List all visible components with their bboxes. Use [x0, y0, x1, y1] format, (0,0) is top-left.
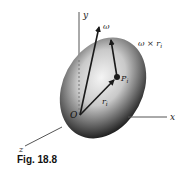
omega-cross-r-label: ω × ri [138, 39, 162, 49]
y-axis-label: y [82, 10, 89, 20]
omega-label: ω [103, 22, 110, 31]
z-axis [25, 127, 62, 146]
point-p-marker [114, 74, 120, 80]
z-axis-label: z [18, 145, 24, 154]
origin-label: O [70, 110, 78, 120]
x-axis-label: x [170, 112, 175, 122]
rigid-body-diagram: y ω ω × ri Pi ri O x z Fig. 18.8 [0, 0, 188, 175]
figure-caption: Fig. 18.8 [17, 154, 57, 165]
